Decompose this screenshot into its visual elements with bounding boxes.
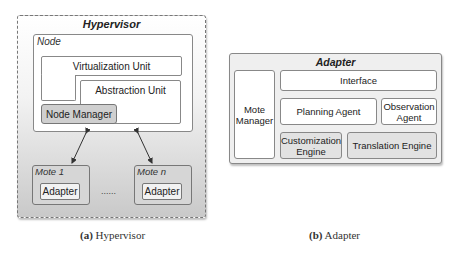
arrow-node-to-mote-n xyxy=(138,133,152,163)
caption-a-text: Hypervisor xyxy=(96,229,146,241)
observation-agent: Observation Agent xyxy=(381,98,437,125)
mote-1-label: Mote 1 xyxy=(35,166,64,177)
arrow-node-to-mote-1 xyxy=(72,133,86,163)
caption-b: (b) Adapter xyxy=(309,229,360,241)
mote-n-label: Mote n xyxy=(137,166,166,177)
mote-n-adapter: Adapter xyxy=(142,183,182,200)
mote-manager: Mote Manager xyxy=(234,70,275,159)
caption-a: (a) Hypervisor xyxy=(80,229,145,241)
caption-b-text: Adapter xyxy=(325,229,360,241)
caption-a-prefix: (a) xyxy=(80,229,93,241)
adapter-title: Adapter xyxy=(229,55,442,69)
planning-agent: Planning Agent xyxy=(280,98,377,125)
interface: Interface xyxy=(280,70,437,91)
ellipsis: ...... xyxy=(101,186,116,196)
mote-1-adapter: Adapter xyxy=(40,183,80,200)
caption-b-prefix: (b) xyxy=(309,229,322,241)
translation-engine: Translation Engine xyxy=(347,132,437,159)
customization-engine: Customization Engine xyxy=(280,132,342,159)
